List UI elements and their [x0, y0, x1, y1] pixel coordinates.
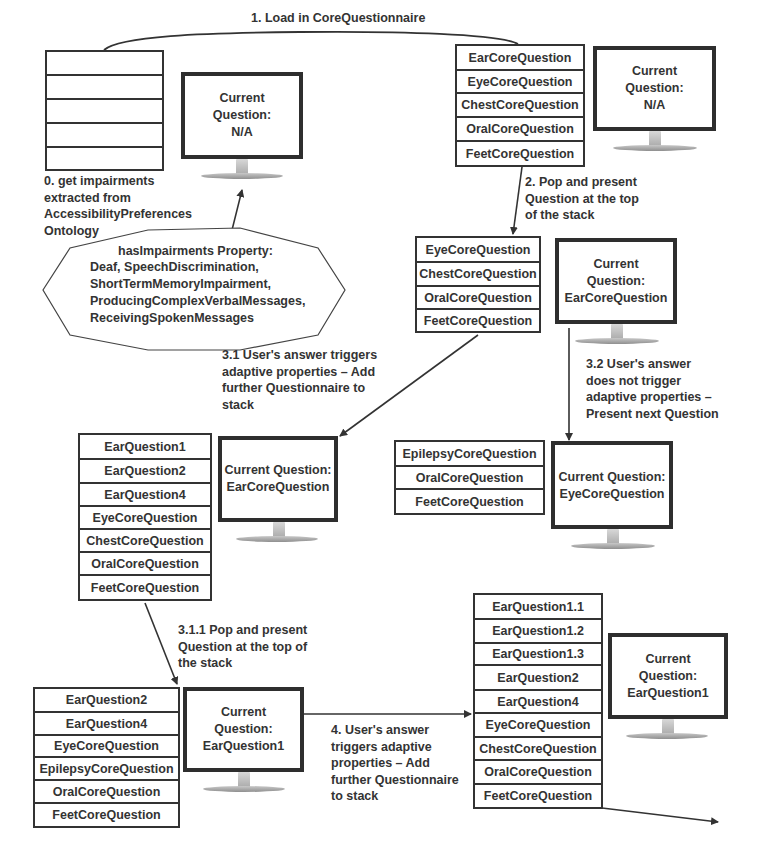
monitor-base	[575, 338, 659, 344]
step-3-1-1-label: 3.1.1 Pop and present Question at the to…	[178, 622, 307, 672]
stack-item: EarQuestion4	[80, 484, 210, 507]
monitor-screen: Current Question: N/A	[181, 72, 303, 159]
stack-after-pop: EyeCoreQuestion ChestCoreQuestion OralCo…	[415, 236, 541, 333]
empty-stack	[45, 50, 164, 171]
step-4-label: 4. User's answer triggers adaptive prope…	[331, 722, 459, 805]
ontology-item: ReceivingSpokenMessages	[90, 310, 254, 327]
monitor-screen: Current Question: EarCoreQuestion	[218, 436, 338, 522]
monitor-screen: Current Question: EyeCoreQuestion	[551, 441, 673, 529]
stack-item: ChestCoreQuestion	[475, 738, 601, 761]
monitor-current-question: Current Question: EyeCoreQuestion	[551, 441, 673, 561]
stack-item: OralCoreQuestion	[80, 553, 210, 576]
stack-added-ear-sub: EarQuestion1.1 EarQuestion1.2 EarQuestio…	[473, 593, 603, 809]
stack-flow-diagram: 1. Load in CoreQuestionnaire 0. get impa…	[0, 0, 762, 862]
monitor-current-question: Current Question: EarCoreQuestion	[555, 238, 677, 356]
current-question-text: Current Question: EarCoreQuestion	[565, 256, 668, 307]
stack-slot	[47, 52, 162, 76]
step-1-label: 1. Load in CoreQuestionnaire	[251, 10, 425, 27]
step-3-1-label: 3.1 User's answer triggers adaptive prop…	[222, 347, 377, 413]
stack-item: EarQuestion2	[80, 460, 210, 484]
core-questionnaire-stack: EarCoreQuestion EyeCoreQuestion ChestCor…	[455, 44, 585, 167]
stack-item: OralCoreQuestion	[457, 118, 583, 142]
monitor-current-question: Current Question: EarQuestion1	[608, 633, 728, 751]
stack-added-ear: EarQuestion1 EarQuestion2 EarQuestion4 E…	[78, 433, 212, 601]
stack-after-pop-ear: EarQuestion2 EarQuestion4 EyeCoreQuestio…	[33, 687, 180, 828]
stack-item: FeetCoreQuestion	[457, 142, 583, 165]
monitor-base	[236, 536, 318, 542]
monitor-screen: Current Question: EarQuestion1	[608, 633, 728, 719]
monitor-base	[571, 543, 655, 549]
stack-slot	[47, 124, 162, 148]
stack-slot	[47, 148, 162, 169]
current-question-text: Current Question: EyeCoreQuestion	[559, 469, 666, 503]
stack-item: OralCoreQuestion	[396, 467, 543, 490]
current-question-text: Current Question: EarQuestion1	[627, 651, 708, 702]
stack-item: OralCoreQuestion	[35, 781, 178, 804]
monitor-base	[201, 173, 283, 179]
stack-item: FeetCoreQuestion	[417, 310, 539, 331]
step-3-2-label: 3.2 User's answer does not trigger adapt…	[586, 356, 719, 422]
stack-item: EpilepsyCoreQuestion	[396, 442, 543, 467]
stack-item: EarQuestion2	[475, 666, 601, 691]
arrow-continue	[602, 808, 718, 822]
stack-item: EyeCoreQuestion	[475, 714, 601, 738]
current-question-text: Current Question: EarQuestion1	[203, 704, 284, 755]
stack-item: EyeCoreQuestion	[80, 507, 210, 530]
monitor-screen: Current Question: EarCoreQuestion	[555, 238, 677, 324]
stack-item: EarQuestion1	[80, 435, 210, 460]
monitor-screen: Current Question: EarQuestion1	[183, 687, 304, 772]
ontology-item: ProducingComplexVerbalMessages,	[90, 293, 305, 310]
arrow-pop-present	[513, 167, 522, 234]
current-question-text: Current Question: N/A	[625, 63, 683, 114]
stack-slot	[47, 76, 162, 100]
stack-item: EarQuestion1.1	[475, 595, 601, 620]
current-question-text: Current Question: EarCoreQuestion	[225, 462, 332, 496]
monitor-base	[626, 733, 708, 739]
monitor-base	[203, 786, 285, 792]
stack-item: FeetCoreQuestion	[475, 785, 601, 807]
stack-item: ChestCoreQuestion	[80, 530, 210, 553]
stack-item: EyeCoreQuestion	[417, 238, 539, 263]
stack-item: EarCoreQuestion	[457, 46, 583, 71]
stack-next-question: EpilepsyCoreQuestion OralCoreQuestion Fe…	[394, 440, 545, 515]
stack-slot	[47, 100, 162, 124]
stack-item: FeetCoreQuestion	[80, 576, 210, 599]
stack-item: EarQuestion1.2	[475, 620, 601, 644]
arrow-pop-present-ear	[145, 603, 177, 684]
monitor-screen: Current Question: N/A	[593, 46, 716, 131]
monitor-current-question: Current Question: N/A	[593, 46, 716, 164]
stack-item: FeetCoreQuestion	[396, 490, 543, 513]
step-2-label: 2. Pop and present Question at the top o…	[525, 174, 639, 224]
monitor-base	[613, 145, 697, 151]
stack-item: EyeCoreQuestion	[457, 71, 583, 94]
stack-item: EpilepsyCoreQuestion	[35, 758, 178, 781]
stack-item: ChestCoreQuestion	[457, 94, 583, 118]
stack-item: EarQuestion4	[475, 691, 601, 714]
ontology-item: Deaf, SpeechDiscrimination,	[90, 259, 259, 276]
stack-item: ChestCoreQuestion	[417, 263, 539, 287]
stack-item: EarQuestion2	[35, 689, 178, 713]
stack-item: OralCoreQuestion	[475, 761, 601, 785]
stack-item: EarQuestion4	[35, 713, 178, 736]
step-0-label: 0. get impairments extracted from Access…	[44, 173, 192, 239]
stack-item: FeetCoreQuestion	[35, 804, 178, 826]
ontology-title: hasImpairments Property:	[118, 243, 273, 260]
arrow-ontology-to-monitor	[232, 190, 242, 230]
stack-item: EarQuestion1.3	[475, 644, 601, 666]
ontology-item: ShortTermMemoryImpairment,	[90, 276, 271, 293]
monitor-current-question: Current Question: EarCoreQuestion	[218, 436, 338, 554]
monitor-current-question: Current Question: N/A	[181, 72, 303, 192]
stack-item: OralCoreQuestion	[417, 287, 539, 310]
current-question-text: Current Question: N/A	[213, 90, 271, 141]
stack-item: EyeCoreQuestion	[35, 736, 178, 758]
monitor-current-question: Current Question: EarQuestion1	[183, 687, 304, 805]
